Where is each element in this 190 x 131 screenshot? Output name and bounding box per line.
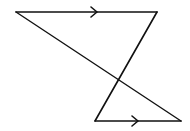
parallel-lines-diagram bbox=[0, 0, 190, 131]
transversal-segment-2 bbox=[95, 12, 157, 121]
diagram-canvas bbox=[0, 0, 190, 131]
transversal-segment-1 bbox=[16, 12, 181, 121]
